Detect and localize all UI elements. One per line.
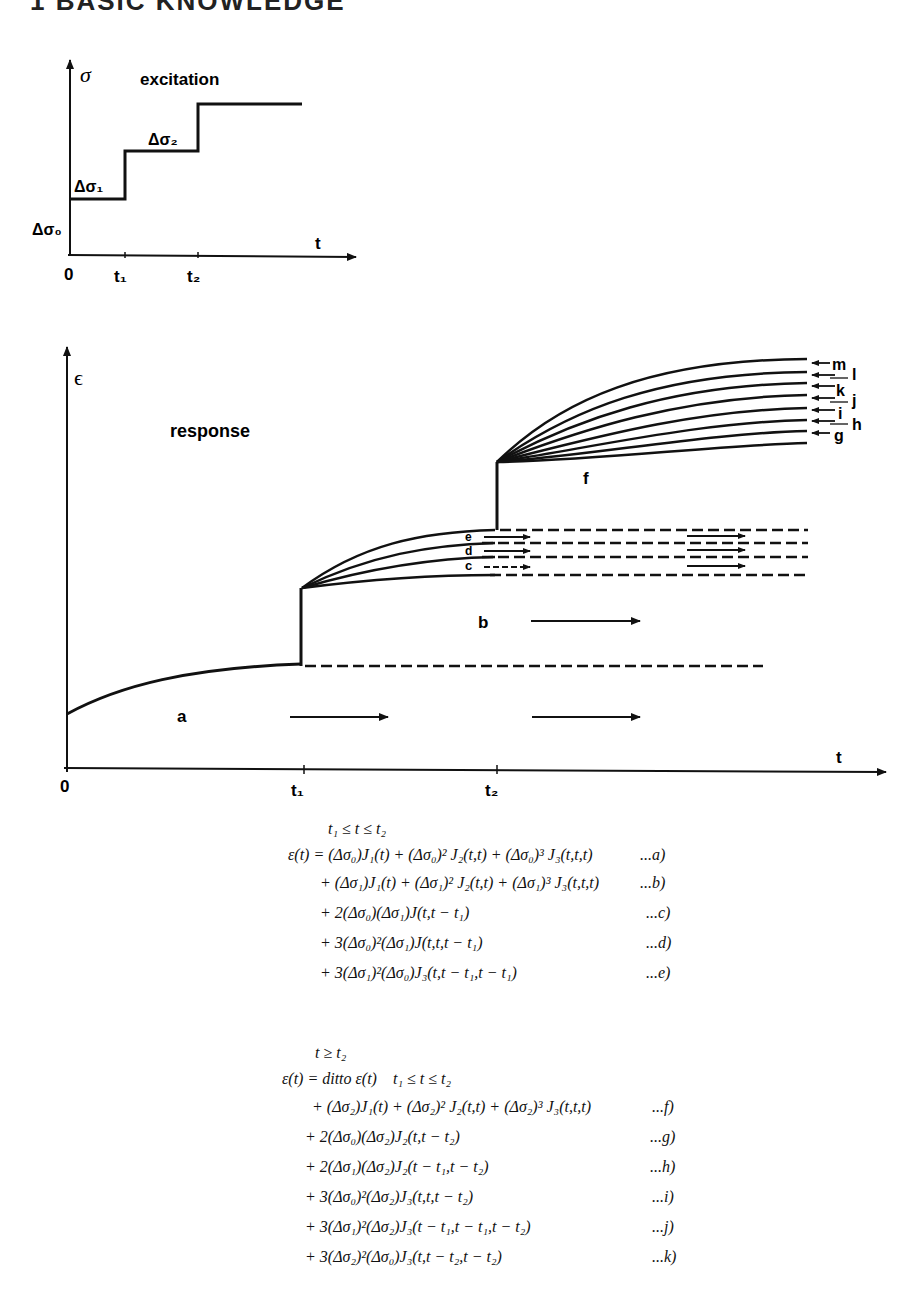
delta-sigma-1-label: Δσ₁	[74, 178, 103, 195]
figure: σ excitation t 0 t₁ t₂ Δσ₀ Δσ₁ Δσ₂ ϵ res…	[0, 0, 900, 800]
eq1-tag-c: ...c)	[646, 904, 670, 922]
eq1-tag-e: ...e)	[646, 964, 670, 982]
label-m: m	[832, 356, 846, 373]
label-a: a	[177, 707, 187, 726]
response-chart: ϵ response t 0 t₁ t₂ e d c	[60, 347, 886, 800]
response-tick-t1: t₁	[291, 781, 304, 800]
eq2-tag-j: ...j)	[652, 1218, 674, 1236]
eq1-line-c: + 2(Δσ₀)(Δσ₁)J(t,t − t₁)	[320, 904, 469, 922]
response-tick-0: 0	[60, 777, 69, 796]
excitation-tick-t1: t₁	[114, 267, 127, 286]
label-f: f	[583, 469, 589, 488]
label-l: l	[852, 366, 856, 383]
excitation-step-curve	[70, 104, 302, 199]
arrows-cde	[484, 536, 745, 567]
excitation-tick-0: 0	[64, 265, 73, 284]
eq2-condition: t ≥ t₂	[315, 1044, 346, 1062]
label-i: i	[838, 405, 842, 422]
response-time-axis	[64, 768, 886, 772]
time-axis	[68, 255, 356, 257]
eq2-line-i: + 3(Δσ₀)²(Δσ₂)J₃(t,t,t − t₂)	[305, 1188, 473, 1206]
epsilon-label: ϵ	[74, 365, 83, 390]
eq1-tag-a: ...a)	[640, 846, 665, 864]
eq2-line-f: + (Δσ₂)J₁(t) + (Δσ₂)² J₂(t,t) + (Δσ₂)³ J…	[312, 1098, 591, 1116]
response-t-label: t	[836, 748, 842, 767]
label-e: e	[465, 530, 472, 544]
label-b: b	[478, 613, 488, 632]
delta-sigma-0-label: Δσ₀	[32, 221, 62, 238]
sigma-label: σ	[80, 62, 92, 87]
label-d: d	[465, 544, 472, 558]
eq2-line-ditto: ε(t) = ditto ε(t) t₁ ≤ t ≤ t₂	[282, 1070, 451, 1088]
eq1-line-a: ε(t) = (Δσ₀)J₁(t) + (Δσ₀)² J₂(t,t) + (Δσ…	[288, 846, 593, 864]
eq2-tag-h: ...h)	[650, 1158, 675, 1176]
excitation-tick-t2: t₂	[187, 267, 200, 286]
eq1-line-b: + (Δσ₁)J₁(t) + (Δσ₁)² J₂(t,t) + (Δσ₁)³ J…	[320, 874, 599, 892]
fan-t1-dashed	[482, 530, 808, 575]
label-c: c	[465, 558, 472, 573]
fan-t2	[497, 359, 807, 462]
eq1-tag-b: ...b)	[640, 874, 665, 892]
delta-sigma-2-label: Δσ₂	[148, 131, 178, 148]
response-title: response	[170, 421, 250, 441]
label-g: g	[834, 427, 844, 444]
label-h: h	[852, 416, 862, 433]
excitation-chart: σ excitation t 0 t₁ t₂ Δσ₀ Δσ₁ Δσ₂	[32, 60, 356, 286]
eq2-tag-k: ...k)	[652, 1248, 676, 1266]
eq1-line-e: + 3(Δσ₁)²(Δσ₀)J₃(t,t − t₁,t − t₁)	[320, 964, 517, 982]
eq2-tag-i: ...i)	[652, 1188, 674, 1206]
excitation-t-label: t	[315, 234, 321, 253]
response-tick-t2: t₂	[485, 781, 498, 800]
eq1-tag-d: ...d)	[646, 934, 671, 952]
eq2-line-k: + 3(Δσ₂)²(Δσ₀)J₃(t,t − t₂,t − t₂)	[305, 1248, 502, 1266]
eq2-line-j: + 3(Δσ₁)²(Δσ₂)J₃(t − t₁,t − t₁,t − t₂)	[305, 1218, 531, 1236]
excitation-title: excitation	[140, 70, 219, 89]
label-k: k	[836, 382, 845, 399]
eq2-line-g: + 2(Δσ₀)(Δσ₂)J₂(t,t − t₂)	[305, 1128, 460, 1146]
arrows-g-to-m	[812, 363, 835, 433]
label-j: j	[851, 392, 856, 409]
eq1-condition: t₁ ≤ t ≤ t₂	[328, 820, 386, 838]
eq2-tag-f: ...f)	[652, 1098, 674, 1116]
eq2-tag-g: ...g)	[650, 1128, 675, 1146]
eq2-line-h: + 2(Δσ₁)(Δσ₂)J₂(t − t₁,t − t₂)	[305, 1158, 489, 1176]
eq1-line-d: + 3(Δσ₀)²(Δσ₁)J(t,t,t − t₁)	[320, 934, 483, 952]
